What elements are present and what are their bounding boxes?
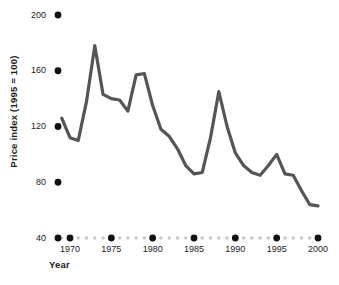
x-axis-minor-dot [168,236,171,239]
x-axis-major-dot [67,235,74,242]
x-axis-minor-dot [225,236,228,239]
x-axis-minor-dot [93,236,96,239]
x-axis-minor-dot [267,236,270,239]
x-axis-major-dot [149,235,156,242]
y-axis-tick-dot [55,67,62,74]
x-axis-minor-dot [250,236,253,239]
y-axis-tick-dot [55,12,62,19]
y-axis-major-dots [55,12,62,242]
x-axis-minor-dot [258,236,261,239]
x-axis-minor-dot [176,236,179,239]
x-axis-minor-dot [283,236,286,239]
x-axis-minor-dot [77,236,80,239]
x-axis-major-dot [232,235,239,242]
y-axis-tick-dot [55,235,62,242]
x-axis-minor-dot [118,236,121,239]
x-axis-minor-dot [308,236,311,239]
plot-area [0,0,339,285]
x-axis-major-dot [191,235,198,242]
x-axis-minor-dot [242,236,245,239]
x-axis-major-dot [108,235,115,242]
x-axis-minor-dot [217,236,220,239]
x-axis-minor-dot [126,236,129,239]
x-axis-minor-dot [159,236,162,239]
x-axis-minor-dot [134,236,137,239]
x-axis-minor-dot [101,236,104,239]
x-axis-minor-dot [300,236,303,239]
x-axis-minor-dot [184,236,187,239]
y-axis-tick-dot [55,179,62,186]
x-axis-minor-dot [292,236,295,239]
x-axis-minor-dot [143,236,146,239]
x-axis-major-dot [315,235,322,242]
x-axis-minor-dot [85,236,88,239]
price-index-line-chart: Price index (1995 = 100) Year 2001601208… [0,0,339,285]
x-axis-minor-dot [209,236,212,239]
series-line-price-index [62,46,318,206]
x-axis-major-dot [273,235,280,242]
x-axis-major-dots [67,235,322,242]
y-axis-tick-dot [55,123,62,130]
x-axis-minor-dot [201,236,204,239]
